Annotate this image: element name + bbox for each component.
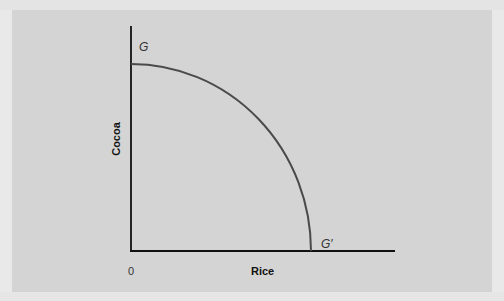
ppf-chart: [0, 0, 504, 301]
ppf-curve: [131, 64, 311, 251]
point-g-prime-label: G′: [321, 237, 333, 251]
y-axis-title: Cocoa: [110, 121, 122, 157]
point-g-label: G: [139, 40, 148, 54]
origin-label: 0: [128, 265, 134, 277]
x-axis-title: Rice: [251, 265, 274, 277]
